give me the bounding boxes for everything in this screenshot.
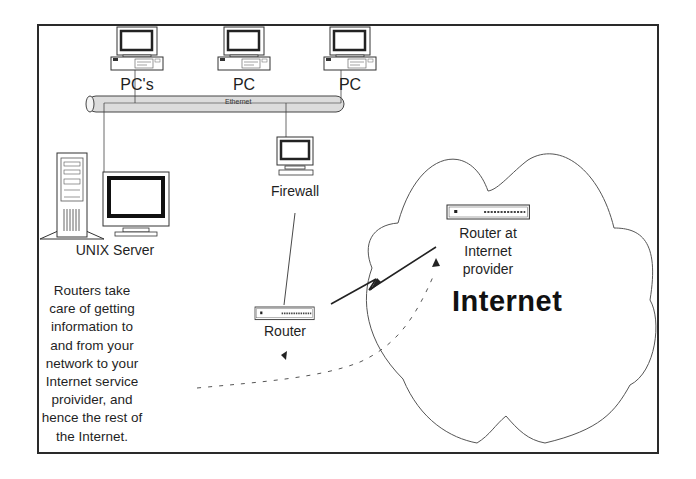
description-line: the Internet. [26, 428, 158, 446]
description-line: proivider, and [26, 391, 158, 409]
ethernet-bus-icon [86, 96, 344, 112]
internet-label: Internet [452, 285, 562, 318]
isp-router-label: Router at Internet provider [447, 224, 529, 278]
description-line: network to your [26, 355, 158, 373]
pc-label: PC [218, 77, 270, 93]
unix-server-label: UNIX Server [60, 242, 170, 258]
pc-icon [324, 27, 376, 70]
pc-label: PC's [111, 77, 163, 93]
pc-icon [111, 27, 163, 70]
arrowhead-icon [281, 351, 287, 360]
firewall-label: Firewall [255, 183, 335, 199]
isp-router-label-line: Internet [447, 242, 529, 260]
description-line: care of getting [26, 300, 158, 318]
description-line: hence the rest of [26, 409, 158, 427]
firewall-icon [277, 137, 313, 175]
network-diagram: PC's PC PC Ethernet UNIX Server Firewall… [0, 0, 696, 479]
description-line: information to [26, 318, 158, 336]
pc-label: PC [324, 77, 376, 93]
description-line: and from your [26, 337, 158, 355]
ethernet-label: Ethernet [225, 98, 251, 105]
unix-server-monitor-icon [103, 172, 169, 236]
router-icon [255, 307, 314, 320]
isp-router-label-line: Router at [447, 224, 529, 242]
unix-server-tower-icon [40, 153, 104, 239]
isp-router-label-line: provider [447, 260, 529, 278]
description-text: Routers take care of getting information… [26, 282, 158, 446]
description-line: Internet service [26, 373, 158, 391]
isp-router-icon [447, 205, 529, 219]
description-line: Routers take [26, 282, 158, 300]
pc-icon [218, 27, 270, 70]
router-label: Router [245, 323, 325, 339]
